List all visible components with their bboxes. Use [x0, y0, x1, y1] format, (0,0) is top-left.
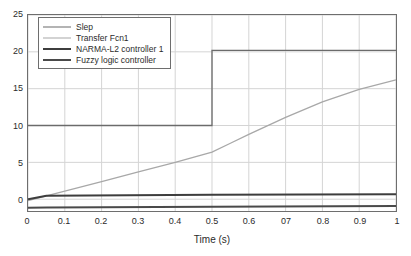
- y-tick-label: 5: [18, 158, 23, 167]
- x-tick-label: 0.2: [95, 217, 108, 226]
- legend-swatch-icon: [42, 32, 72, 43]
- y-tick-label: 10: [13, 121, 23, 130]
- legend-swatch-icon: [42, 43, 72, 54]
- x-axis-title: Time (s): [27, 234, 397, 245]
- y-axis-tick-labels: 0510152025: [0, 14, 23, 212]
- x-tick-label: 1: [394, 217, 399, 226]
- chart-figure: 0510152025 SlepTransfer Fcn1NARMA-L2 con…: [0, 0, 411, 256]
- x-tick-label: 0.8: [317, 217, 330, 226]
- y-tick-label: 15: [13, 84, 23, 93]
- legend-swatch-icon: [42, 21, 72, 32]
- x-tick-label: 0.6: [243, 217, 256, 226]
- y-tick-label: 20: [13, 47, 23, 56]
- x-tick-label: 0.9: [354, 217, 367, 226]
- series-line-3: [28, 206, 396, 208]
- legend-label: Slep: [72, 22, 93, 32]
- legend: SlepTransfer Fcn1NARMA-L2 controller 1Fu…: [38, 17, 171, 69]
- x-tick-label: 07: [281, 217, 291, 226]
- y-tick-label: 0: [18, 196, 23, 205]
- legend-item-0[interactable]: Slep: [42, 21, 166, 32]
- x-tick-label: 0.3: [132, 217, 145, 226]
- legend-item-3[interactable]: Fuzzy logic controller: [42, 54, 166, 65]
- legend-label: Transfer Fcn1: [72, 33, 129, 43]
- x-tick-label: 0.4: [169, 217, 182, 226]
- legend-item-1[interactable]: Transfer Fcn1: [42, 32, 166, 43]
- x-tick-label: 0: [24, 217, 29, 226]
- legend-label: NARMA-L2 controller 1: [72, 44, 163, 54]
- legend-label: Fuzzy logic controller: [72, 55, 156, 65]
- x-tick-label: 0.5: [206, 217, 219, 226]
- x-tick-label: 0.1: [58, 217, 71, 226]
- legend-swatch-icon: [42, 54, 72, 65]
- x-axis-tick-labels: 00.10.20.30.40.50.6070.80.91: [27, 217, 397, 229]
- legend-item-2[interactable]: NARMA-L2 controller 1: [42, 43, 166, 54]
- y-tick-label: 25: [13, 10, 23, 19]
- series-line-2: [28, 194, 396, 199]
